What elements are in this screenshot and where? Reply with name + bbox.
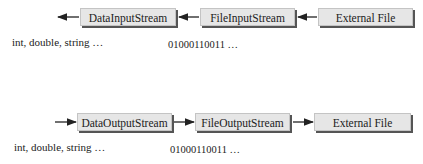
fileinputstream-label: FileInputStream (210, 12, 285, 24)
fileinputstream-box: FileInputStream (200, 8, 295, 26)
datainputstream-box: DataInputStream (80, 8, 176, 26)
external-file-input-box: External File (318, 8, 413, 26)
dataoutputstream-box: DataOutputStream (77, 113, 172, 131)
input-data-types-label: int, double, string … (12, 36, 103, 48)
fileoutputstream-label: FileOutputStream (201, 117, 283, 129)
output-data-types-label: int, double, string … (14, 141, 105, 153)
output-bits-label: 01000110011 … (170, 144, 240, 155)
external-file-output-label: External File (333, 117, 393, 129)
dataoutputstream-label: DataOutputStream (81, 117, 167, 129)
external-file-output-box: External File (314, 113, 411, 131)
input-bits-label: 01000110011 … (168, 39, 238, 50)
datainputstream-label: DataInputStream (89, 12, 168, 24)
fileoutputstream-box: FileOutputStream (195, 113, 290, 131)
external-file-input-label: External File (336, 12, 396, 24)
